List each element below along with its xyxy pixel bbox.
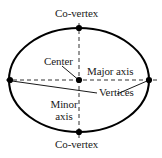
vertex-left-dot: [7, 77, 13, 83]
label-minor-axis: Minor axis: [43, 98, 85, 122]
vertices-left-leader-line: [12, 81, 97, 93]
covertex-bottom-dot: [76, 129, 82, 135]
center-leader-line: [62, 66, 78, 79]
diagram-canvas: [0, 0, 162, 158]
ellipse-diagram: Co-vertex Center Major axis Vertices Min…: [0, 0, 162, 158]
label-center: Center: [44, 55, 73, 67]
label-minor-axis-line2: axis: [55, 110, 72, 122]
label-major-axis: Major axis: [87, 65, 133, 77]
center-point-dot: [76, 77, 82, 83]
vertex-right-dot: [146, 77, 152, 83]
label-covertex-top: Co-vertex: [55, 7, 98, 19]
covertex-top-dot: [76, 25, 82, 31]
label-covertex-bottom: Co-vertex: [55, 138, 98, 150]
label-vertices: Vertices: [99, 86, 134, 98]
label-minor-axis-line1: Minor: [50, 98, 77, 110]
